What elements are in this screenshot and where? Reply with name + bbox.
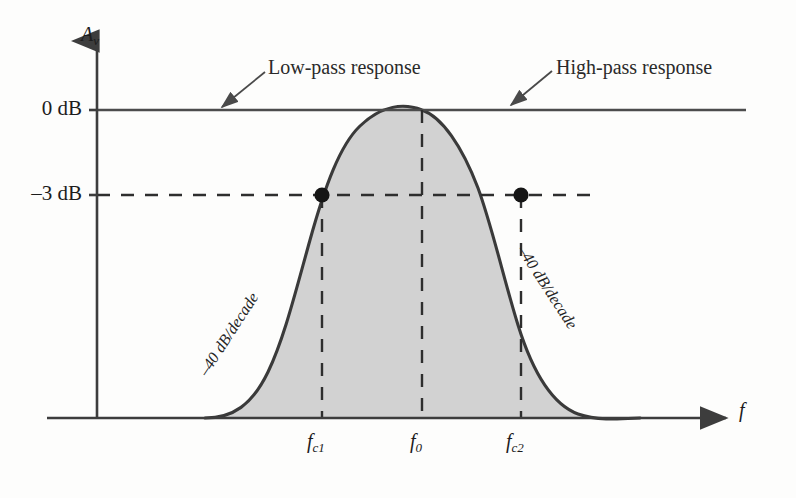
x-tick-label-fc2: fc2 — [506, 431, 524, 454]
x-axis-title: f — [739, 400, 745, 420]
y-axis-title: Av — [81, 24, 99, 47]
y-axis-title-text: A — [81, 23, 93, 45]
high-pass-response-label: High-pass response — [556, 57, 712, 77]
x-tick-label-f0: f0 — [410, 431, 422, 454]
x-tick-label-f0-subscript: 0 — [416, 440, 423, 455]
y-tick-label-0db-text: 0 dB — [42, 96, 82, 120]
y-axis-title-subscript: v — [93, 33, 99, 48]
x-tick-label-fc1: fc1 — [307, 431, 325, 454]
low-pass-response-label: Low-pass response — [268, 57, 421, 77]
x-tick-label-fc2-subscript: c2 — [512, 440, 524, 455]
low-pass-leader-arrow — [222, 72, 265, 107]
fc1-cutoff-point — [314, 187, 329, 202]
high-pass-response-label-text: High-pass response — [556, 56, 712, 78]
x-tick-label-fc1-subscript: c1 — [313, 440, 325, 455]
y-tick-label-minus3db: –3 dB — [0, 183, 82, 204]
low-pass-response-label-text: Low-pass response — [268, 56, 421, 78]
filter-response-figure: Av f 0 dB –3 dB fc1 f0 fc2 Low-pass resp… — [0, 0, 796, 498]
fc2-cutoff-point — [513, 187, 528, 202]
high-pass-leader-arrow — [511, 71, 552, 105]
x-axis-title-text: f — [739, 399, 745, 421]
y-tick-label-0db: 0 dB — [8, 98, 82, 119]
y-tick-label-minus3db-text: –3 dB — [31, 181, 82, 205]
